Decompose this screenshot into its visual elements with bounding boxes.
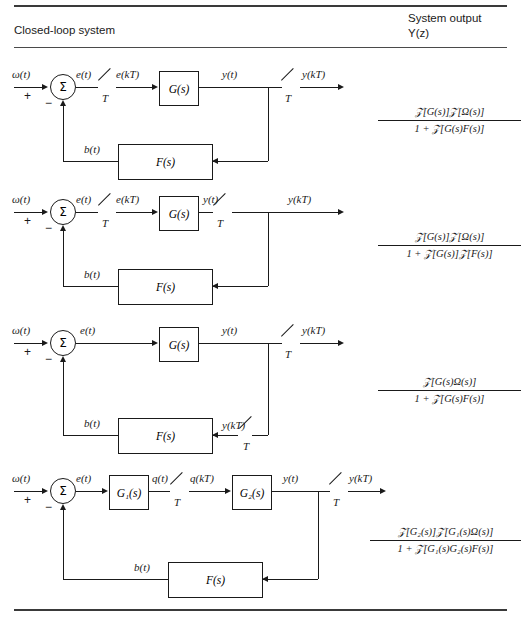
formula-2-numerator: 𝒵[G(s)]𝒵[Ω(s)] [378, 231, 521, 246]
sampler-2-period: T [285, 92, 291, 104]
feedback-sampled-label: y(kT) [222, 419, 245, 431]
minus-sign: − [45, 96, 52, 110]
error-label: e(t) [76, 193, 91, 205]
block-input-arrowhead [152, 84, 158, 90]
feedback-riser [63, 510, 64, 579]
formula-3-numerator: 𝒵[G(s)Ω(s)] [378, 376, 521, 391]
feedback-signal-label: b(t) [84, 143, 100, 155]
input-line [14, 212, 42, 213]
input-label: ω(t) [12, 324, 30, 336]
error-line [76, 343, 152, 344]
intermediate-line [149, 491, 170, 492]
plant-output-line [199, 87, 268, 88]
feedback-into-sum-arrowhead [60, 225, 66, 231]
error-line [76, 491, 102, 492]
output-stub-line [318, 491, 330, 492]
formula-1-denominator: 1 + 𝒵[G(s)F(s)] [378, 121, 521, 135]
feedback-line-left [63, 286, 118, 287]
sampler-1-period: T [102, 217, 108, 229]
takeoff-branch [268, 87, 269, 161]
column-header-closed-loop-system: Closed-loop system [14, 24, 115, 36]
rule-bottom [14, 609, 507, 611]
sigma-symbol: Σ [59, 484, 67, 498]
plant-output-stub [199, 212, 213, 213]
plus-sign: + [24, 493, 31, 507]
feedback-block-label: F(s) [156, 156, 175, 168]
sampler-output-period: T [285, 348, 291, 360]
feedback-line-left [63, 579, 168, 580]
feedback-into-sum-arrowhead [60, 100, 66, 106]
summing-junction: Σ [50, 478, 76, 504]
feedback-signal-label: b(t) [84, 268, 100, 280]
output-line [232, 212, 338, 213]
feedback-block: F(s) [118, 144, 213, 180]
plus-sign: + [24, 214, 31, 228]
formula-row-1: 𝒵[G(s)]𝒵[Ω(s)] 1 + 𝒵[G(s)F(s)] [378, 106, 521, 135]
output-stub-line [268, 343, 282, 344]
feedback-line-left [63, 435, 118, 436]
takeoff-branch [268, 212, 269, 286]
plant-output-line [272, 491, 318, 492]
plant-output-label: y(t) [283, 472, 298, 484]
feedback-sampler-period: T [243, 440, 249, 452]
sampled-error-label: e(kT) [116, 193, 139, 205]
input-arrowhead [42, 340, 48, 346]
sampled-intermediate-label: q(kT) [190, 472, 214, 484]
formula-row-3: 𝒵[G(s)Ω(s)] 1 + 𝒵[G(s)F(s)] [378, 376, 521, 405]
minus-sign: − [45, 221, 52, 235]
sampler-1-period: T [102, 92, 108, 104]
forward-block-label: G(s) [169, 83, 189, 95]
output-arrowhead [338, 209, 344, 215]
takeoff-branch [318, 491, 319, 579]
input-label: ω(t) [12, 68, 30, 80]
formula-4-numerator: 𝒵[G₂(s)]𝒵[G₁(s)Ω(s)] [370, 526, 521, 541]
output-arrowhead [380, 488, 386, 494]
takeoff-branch [268, 343, 269, 435]
formula-4-denominator: 1 + 𝒵[G₁(s)G₂(s)F(s)] [370, 541, 521, 555]
error-line [76, 212, 98, 213]
formula-1-numerator: 𝒵[G(s)]𝒵[Ω(s)] [378, 106, 521, 121]
intermediate-label: q(t) [152, 472, 168, 484]
sampled-intermediate-line [189, 491, 225, 492]
input-line [14, 343, 42, 344]
sigma-symbol: Σ [59, 205, 67, 219]
input-label: ω(t) [12, 193, 30, 205]
sampled-error-line [116, 212, 152, 213]
input-arrowhead [42, 209, 48, 215]
output-sampled-label: y(kT) [302, 324, 325, 336]
output-line [348, 491, 380, 492]
block1-input-arrowhead [102, 488, 108, 494]
output-line [300, 343, 338, 344]
plus-sign: + [24, 345, 31, 359]
figure-page: Closed-loop system System output Y(z) ω(… [0, 0, 521, 617]
input-label: ω(t) [12, 472, 30, 484]
rule-header [14, 47, 507, 48]
formula-row-4: 𝒵[G₂(s)]𝒵[G₁(s)Ω(s)] 1 + 𝒵[G₁(s)G₂(s)F(s… [370, 526, 521, 555]
input-arrowhead [42, 84, 48, 90]
forward-block-label: G(s) [169, 339, 189, 351]
output-stub-line [268, 87, 282, 88]
system-output-symbol: Y(z) [408, 26, 482, 41]
feedback-line-right [212, 161, 268, 162]
sampled-error-line [116, 87, 152, 88]
input-line [14, 491, 42, 492]
feedback-block-label: F(s) [156, 430, 175, 442]
error-label: e(t) [80, 324, 95, 336]
block-input-arrowhead [152, 209, 158, 215]
feedback-block: F(s) [118, 418, 213, 454]
feedback-riser [63, 106, 64, 161]
feedback-line-right [262, 579, 318, 580]
feedback-stub-right [252, 435, 268, 436]
forward-block-label: G(s) [169, 208, 189, 220]
feedback-line-right [212, 286, 268, 287]
sigma-symbol: Σ [59, 336, 67, 350]
summing-junction: Σ [50, 330, 76, 356]
output-sampled-label: y(kT) [302, 68, 325, 80]
input-arrowhead [42, 488, 48, 494]
sigma-symbol: Σ [59, 80, 67, 94]
formula-3-denominator: 1 + 𝒵[G(s)F(s)] [378, 391, 521, 405]
feedback-block-label: F(s) [156, 281, 175, 293]
forward-block-2-label: G₂(s) [240, 487, 264, 499]
feedback-riser [63, 231, 64, 286]
sampler-2-period: T [333, 496, 339, 508]
